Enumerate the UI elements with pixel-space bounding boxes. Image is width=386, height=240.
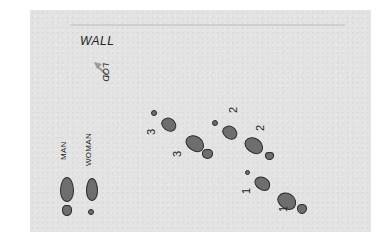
legend-woman-footprint-heel (88, 209, 94, 215)
wall-line (70, 24, 345, 26)
step-3-man-heel (202, 149, 213, 159)
step-2-woman-number: 2 (227, 107, 239, 113)
step-1-woman-heel (245, 170, 250, 175)
step-2-man-number: 2 (254, 125, 266, 131)
step-2-woman-heel (212, 120, 218, 126)
step-3-woman-heel (151, 110, 157, 116)
step-1-woman-number: 1 (240, 188, 252, 194)
step-3-man-number: 3 (171, 151, 183, 157)
step-2-man-heel (265, 152, 274, 160)
legend-woman-label: WOMAN (84, 133, 93, 166)
legend-man-label: MAN (59, 141, 68, 160)
step-1-man-heel (297, 204, 307, 214)
legend-man-footprint-ball (60, 177, 74, 202)
step-1-man-number: 1 (277, 206, 289, 212)
legend-woman-footprint-ball (86, 178, 98, 201)
step-3-woman-number: 3 (145, 129, 157, 135)
line-of-dance-label: LOD (101, 63, 111, 82)
wall-label: WALL (80, 34, 114, 48)
legend-man-footprint-heel (62, 205, 72, 216)
